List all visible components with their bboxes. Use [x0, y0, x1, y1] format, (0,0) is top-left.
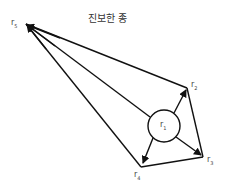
label-r3: r3 [207, 155, 213, 166]
label-r1: r1 [160, 120, 166, 131]
label-r5: r5 [11, 18, 17, 29]
label-r2: r2 [191, 80, 197, 91]
edge-r3-r4 [141, 157, 203, 167]
label-r4: r4 [134, 170, 140, 181]
evolution-diagram [0, 0, 227, 190]
